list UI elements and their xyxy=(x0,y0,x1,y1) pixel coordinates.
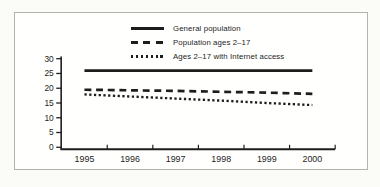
x-tick-label: 1999 xyxy=(257,154,277,164)
x-tick-label: 1998 xyxy=(211,154,231,164)
x-tick-label: 1995 xyxy=(75,154,95,164)
y-tick-label: 0 xyxy=(49,142,54,152)
legend-label-general-population: General population xyxy=(173,23,241,34)
series-line-population-ages-2-17 xyxy=(84,90,312,94)
legend-label-population-ages-2-17: Population ages 2–17 xyxy=(173,37,250,48)
dashed-line-sample-icon xyxy=(131,41,164,44)
y-tick-label: 20 xyxy=(44,83,54,93)
dotted-line-sample-icon xyxy=(131,55,164,58)
legend-item-general-population: General population xyxy=(131,23,284,34)
y-tick-label: 10 xyxy=(44,113,54,123)
y-tick-label: 15 xyxy=(44,98,54,108)
legend-label-ages-2-17-internet: Ages 2–17 with Internet access xyxy=(173,51,284,62)
y-tick-label: 25 xyxy=(44,68,54,78)
series-line-ages-2-17-with-internet-access xyxy=(84,94,312,105)
y-tick-label: 5 xyxy=(49,127,54,137)
solid-line-sample-icon xyxy=(131,27,164,30)
figure-scan: General population Population ages 2–17 … xyxy=(0,0,380,187)
legend-item-ages-2-17-internet: Ages 2–17 with Internet access xyxy=(131,51,284,62)
x-tick-label: 1997 xyxy=(166,154,186,164)
x-tick-label: 2000 xyxy=(302,154,322,164)
chart-frame: General population Population ages 2–17 … xyxy=(14,12,368,170)
chart-legend: General population Population ages 2–17 … xyxy=(131,23,284,62)
y-tick-label: 30 xyxy=(44,54,54,64)
x-tick-label: 1996 xyxy=(120,154,140,164)
legend-item-population-ages-2-17: Population ages 2–17 xyxy=(131,37,284,48)
